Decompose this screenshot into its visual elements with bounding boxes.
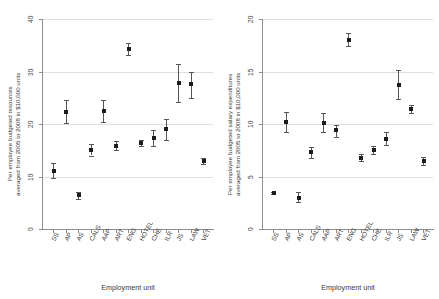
y-tick-label-30: 30 [27, 65, 38, 79]
error-bar-cap-lower-VET [201, 164, 206, 165]
error-bar-cap-upper-ART [114, 141, 119, 142]
gridline-y-30 [43, 72, 213, 73]
data-point-AP [64, 110, 68, 114]
error-bar-cap-upper-AAP [101, 100, 106, 101]
x-tick-label-text: JS [395, 232, 405, 242]
data-point-AS [77, 193, 81, 197]
data-point-SS [52, 169, 56, 173]
y-tick-10 [259, 124, 262, 125]
y-axis-title-right-line1: Per employee budgeted salary expenditure… [226, 36, 234, 232]
y-tick-label-5: 5 [247, 170, 258, 184]
y-tick-10 [39, 177, 42, 178]
error-bar-cap-lower-HOTEL [139, 146, 144, 147]
plot-area-right [263, 19, 433, 229]
y-tick-label-0: 0 [27, 222, 38, 236]
gridline-y-40 [43, 19, 213, 20]
y-axis-title-left-line2: averaged from 2005 to 2008 in $10,000 un… [14, 36, 22, 232]
x-tick-label-text: ILR [382, 230, 393, 242]
data-point-HOTEL [139, 141, 143, 145]
y-tick-0 [259, 229, 262, 230]
data-point-HOTEL [359, 156, 363, 160]
error-bar-cap-lower-VET [421, 165, 426, 166]
error-bar-cap-lower-ART [114, 150, 119, 151]
error-bar-cap-upper-SS [51, 163, 56, 164]
data-point-ENG [127, 47, 131, 51]
error-bar-cap-lower-ART [334, 137, 339, 138]
x-tick-label-text: AP [282, 231, 292, 242]
y-axis-line [42, 19, 43, 230]
error-bar-cap-upper-CALS [89, 144, 94, 145]
error-bar-cap-lower-CHE [371, 154, 376, 155]
data-point-CALS [309, 150, 313, 154]
x-tick-label-text: JS [175, 232, 185, 242]
error-bar-cap-lower-ILR [384, 145, 389, 146]
y-tick-label-20: 20 [27, 117, 38, 131]
error-bar-cap-lower-AP [64, 123, 69, 124]
error-bar-cap-upper-AP [284, 112, 289, 113]
error-bar-cap-lower-AAP [321, 132, 326, 133]
y-tick-label-10: 10 [27, 170, 38, 184]
data-point-ART [334, 128, 338, 132]
error-bar-cap-lower-AP [284, 132, 289, 133]
error-bar-cap-upper-JS [396, 70, 401, 71]
error-bar-cap-lower-ILR [164, 140, 169, 141]
y-tick-label-0: 0 [247, 222, 258, 236]
error-bar-cap-upper-AAP [321, 113, 326, 114]
error-bar-cap-upper-ENG [346, 33, 351, 34]
error-bar-cap-lower-JS [396, 99, 401, 100]
y-tick-label-40: 40 [27, 12, 38, 26]
gridline-y-20 [43, 124, 213, 125]
x-tick-label-text: ILR [162, 230, 173, 242]
error-bar-cap-upper-CHE [371, 146, 376, 147]
data-point-AS [297, 196, 301, 200]
data-point-SS [272, 191, 276, 195]
error-bar-cap-lower-CALS [89, 156, 94, 157]
error-bar-cap-upper-CHE [151, 130, 156, 131]
y-tick-5 [259, 177, 262, 178]
x-tick-label-text: SS [270, 231, 280, 242]
data-point-VET [202, 159, 206, 163]
data-point-CHE [152, 136, 156, 140]
x-axis-title-right: Employment unit [268, 283, 428, 292]
x-axis-title-left: Employment unit [48, 283, 208, 292]
gridline-y-20 [263, 19, 433, 20]
error-bar-cap-upper-ILR [164, 119, 169, 120]
y-tick-0 [39, 229, 42, 230]
gridline-y-10 [43, 177, 213, 178]
data-point-ILR [164, 127, 168, 131]
error-bar-cap-upper-LAW [189, 72, 194, 73]
data-point-JS [397, 83, 401, 87]
data-point-JS [177, 81, 181, 85]
error-bar-cap-upper-ILR [384, 132, 389, 133]
x-tick-label-text: AS [75, 231, 85, 242]
y-tick-30 [39, 72, 42, 73]
panel-left: Per employee budgeted resources averaged… [0, 0, 219, 299]
error-bar-cap-lower-LAW [189, 98, 194, 99]
error-bar-cap-lower-ENG [126, 55, 131, 56]
error-bar-cap-upper-ART [334, 125, 339, 126]
error-bar-cap-lower-SS [51, 178, 56, 179]
gridline-y-5 [263, 177, 433, 178]
data-point-ENG [347, 38, 351, 42]
y-tick-label-20: 20 [247, 12, 258, 26]
error-bar-cap-upper-AP [64, 100, 69, 101]
y-axis-title-right-line2: averaged from 2005 to 2008 in $10,000 un… [234, 36, 242, 232]
error-bar-cap-lower-CALS [309, 158, 314, 159]
y-axis-title-left: Per employee budgeted resources averaged… [6, 36, 23, 232]
error-bar-cap-lower-AS [76, 199, 81, 200]
figure-two-panel-error-bar-plot: Per employee budgeted resources averaged… [0, 0, 439, 299]
x-tick-label-text: AS [295, 231, 305, 242]
data-point-AAP [102, 109, 106, 113]
plot-area-left [43, 19, 213, 229]
y-tick-40 [39, 19, 42, 20]
error-bar-cap-upper-ENG [126, 43, 131, 44]
y-tick-label-15: 15 [247, 65, 258, 79]
data-point-LAW [189, 82, 193, 86]
error-bar-cap-lower-JS [176, 102, 181, 103]
y-axis-title-right: Per employee budgeted salary expenditure… [226, 36, 243, 232]
error-bar-cap-lower-LAW [409, 113, 414, 114]
data-point-LAW [409, 107, 413, 111]
error-bar-cap-lower-CHE [151, 146, 156, 147]
data-point-VET [422, 159, 426, 163]
data-point-ART [114, 144, 118, 148]
